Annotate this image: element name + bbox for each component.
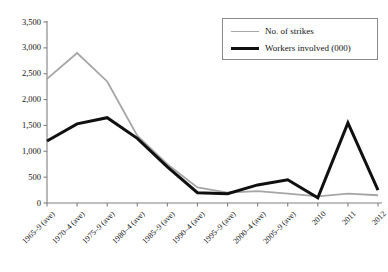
y-axis-tick-label: 2,500 xyxy=(1,69,41,78)
legend-line-swatch-gray xyxy=(231,31,259,32)
y-axis-tick-label: 500 xyxy=(1,173,41,182)
y-axis-tick-label: 3,000 xyxy=(1,43,41,52)
y-axis-tick-label: 0 xyxy=(1,199,41,208)
y-axis-tick-label: 1,500 xyxy=(1,121,41,130)
legend-item-workers-involved: Workers involved (000) xyxy=(231,42,351,54)
legend-label-workers-involved: Workers involved (000) xyxy=(265,44,351,53)
y-axis-tick-label: 3,500 xyxy=(1,18,41,27)
legend-line-swatch-black xyxy=(231,47,259,50)
y-axis-tick-label: 2,000 xyxy=(1,95,41,104)
series-line-1 xyxy=(47,118,378,198)
legend-item-no-of-strikes: No. of strikes xyxy=(231,25,314,37)
legend-label-no-of-strikes: No. of strikes xyxy=(265,27,314,36)
figure-caption xyxy=(22,256,367,270)
chart-legend: No. of strikes Workers involved (000) xyxy=(222,18,378,60)
y-axis-tick-label: 1,000 xyxy=(1,147,41,156)
